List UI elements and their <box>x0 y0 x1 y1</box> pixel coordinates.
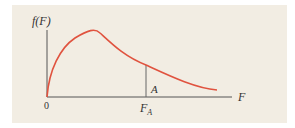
critical-value-label: FA <box>139 101 152 117</box>
y-axis-label: f(F) <box>32 14 51 28</box>
density-curve <box>47 30 217 97</box>
x-axis-label: F <box>237 90 246 104</box>
area-label: A <box>150 83 158 95</box>
f-distribution-chart: f(F) F 0 A FA <box>0 0 295 128</box>
origin-label: 0 <box>44 100 49 111</box>
